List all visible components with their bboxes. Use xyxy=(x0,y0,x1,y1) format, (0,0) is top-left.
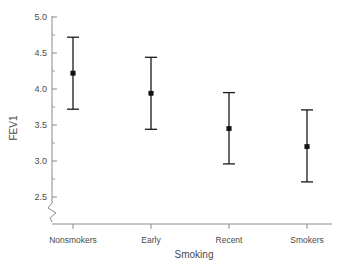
y-tick-label-3-5: 3.5 xyxy=(34,120,47,130)
y-tick-label-3-0: 3.0 xyxy=(34,156,47,166)
error-bar-chart: 5.0 4.5 4.0 3.5 3.0 2.5 FEV1 Nonsmokers … xyxy=(0,0,341,269)
y-axis-title: FEV1 xyxy=(8,115,19,140)
x-axis-title: Smoking xyxy=(175,249,214,260)
marker-early xyxy=(149,91,153,95)
x-tick-label-early: Early xyxy=(141,235,161,245)
x-tick-label-nonsmokers: Nonsmokers xyxy=(49,235,97,245)
chart-figure: 5.0 4.5 4.0 3.5 3.0 2.5 FEV1 Nonsmokers … xyxy=(0,0,341,269)
y-tick-label-4-0: 4.0 xyxy=(34,84,47,94)
y-tick-label-2-5: 2.5 xyxy=(34,192,47,202)
marker-nonsmokers xyxy=(71,71,75,75)
x-tick-label-recent: Recent xyxy=(216,235,244,245)
y-tick-label-4-5: 4.5 xyxy=(34,48,47,58)
marker-smokers xyxy=(305,144,309,148)
marker-recent xyxy=(227,126,231,130)
chart-background xyxy=(0,0,341,269)
y-tick-label-5-0: 5.0 xyxy=(34,12,47,22)
x-tick-label-smokers: Smokers xyxy=(290,235,324,245)
